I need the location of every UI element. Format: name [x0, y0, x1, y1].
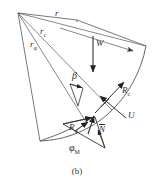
figure-caption: (b)	[0, 166, 154, 176]
label-beta: β	[72, 71, 77, 81]
label-r-phi: rφ	[30, 40, 37, 51]
slope-geometry-group	[18, 13, 146, 148]
label-W: W	[96, 39, 104, 48]
label-U: U	[128, 111, 135, 120]
label-N-bar: N	[99, 124, 105, 134]
label-phi-M: φM	[69, 143, 80, 155]
radius-line-r	[18, 13, 146, 46]
label-R-phi: Rφ	[69, 123, 78, 134]
beta-wedge-arrow	[70, 84, 82, 88]
label-r-c: rc	[40, 27, 46, 38]
label-r: r	[55, 9, 59, 18]
label-R-c: Rc	[122, 86, 130, 97]
radius-line-rphi	[18, 13, 86, 122]
vector-Rc	[95, 82, 124, 113]
figure-container: r rc rφ W β Rc U Rφ N φM (b)	[0, 0, 154, 181]
